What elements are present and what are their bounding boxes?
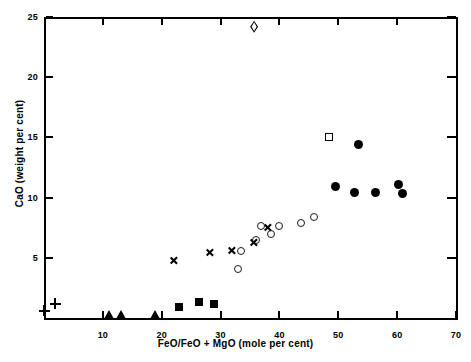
y-tick <box>46 76 53 78</box>
x-tick <box>278 311 280 320</box>
data-point-filled-circle <box>354 140 363 149</box>
data-point-cross-x <box>263 222 274 233</box>
data-point-cross-x <box>249 237 260 248</box>
data-point-open-circle <box>257 222 265 230</box>
data-point-open-diamond <box>250 21 258 33</box>
y-tick-label: 5 <box>8 253 38 263</box>
x-tick-top <box>396 17 398 25</box>
y-axis-title: CaO (weight per cent) <box>14 59 25 249</box>
data-point-open-circle <box>252 236 260 244</box>
data-point-filled-square <box>175 303 183 311</box>
data-point-filled-circle <box>398 189 407 198</box>
y-tick-label: 25 <box>8 12 38 22</box>
x-tick-top <box>337 17 339 25</box>
data-point-filled-circle <box>394 180 403 189</box>
data-point-filled-circle <box>371 188 380 197</box>
data-point-filled-circle <box>331 182 340 191</box>
x-tick <box>455 311 457 320</box>
plot-area <box>44 17 458 320</box>
data-point-open-circle <box>310 213 318 221</box>
y-axis-line <box>44 17 46 320</box>
y-tick <box>46 257 53 259</box>
y-tick-right <box>447 136 456 138</box>
data-point-filled-circle <box>350 188 359 197</box>
x-tick <box>161 311 163 320</box>
data-point-open-circle <box>267 230 275 238</box>
x-tick-top <box>220 17 222 25</box>
x-tick-top <box>102 17 104 25</box>
data-point-cross-x <box>169 255 180 266</box>
data-point-open-circle <box>237 247 245 255</box>
right-frame-line <box>456 17 458 320</box>
y-tick-right <box>447 16 456 18</box>
y-tick <box>46 197 53 199</box>
data-point-filled-square <box>210 300 218 308</box>
data-point-open-circle <box>275 222 283 230</box>
data-point-open-circle <box>297 219 305 227</box>
x-tick <box>396 311 398 320</box>
data-point-plus <box>50 298 61 309</box>
x-tick <box>102 311 104 320</box>
y-tick-right <box>447 76 456 78</box>
x-tick <box>337 311 339 320</box>
x-axis-title: FeO/FeO + MgO (mole per cent) <box>0 338 471 349</box>
y-tick-right <box>447 257 456 259</box>
data-point-open-circle <box>234 265 242 273</box>
x-tick <box>220 311 222 320</box>
x-tick-top <box>161 17 163 25</box>
data-point-cross-x <box>226 245 237 256</box>
y-tick <box>46 16 53 18</box>
y-tick-right <box>447 197 456 199</box>
data-point-cross-x <box>204 247 215 258</box>
scatter-plot-figure: 510152025 10203040506070 FeO/FeO + MgO (… <box>0 0 471 362</box>
x-tick-top <box>278 17 280 25</box>
data-point-open-square <box>325 133 333 141</box>
y-tick <box>46 136 53 138</box>
data-point-filled-square <box>195 298 203 306</box>
